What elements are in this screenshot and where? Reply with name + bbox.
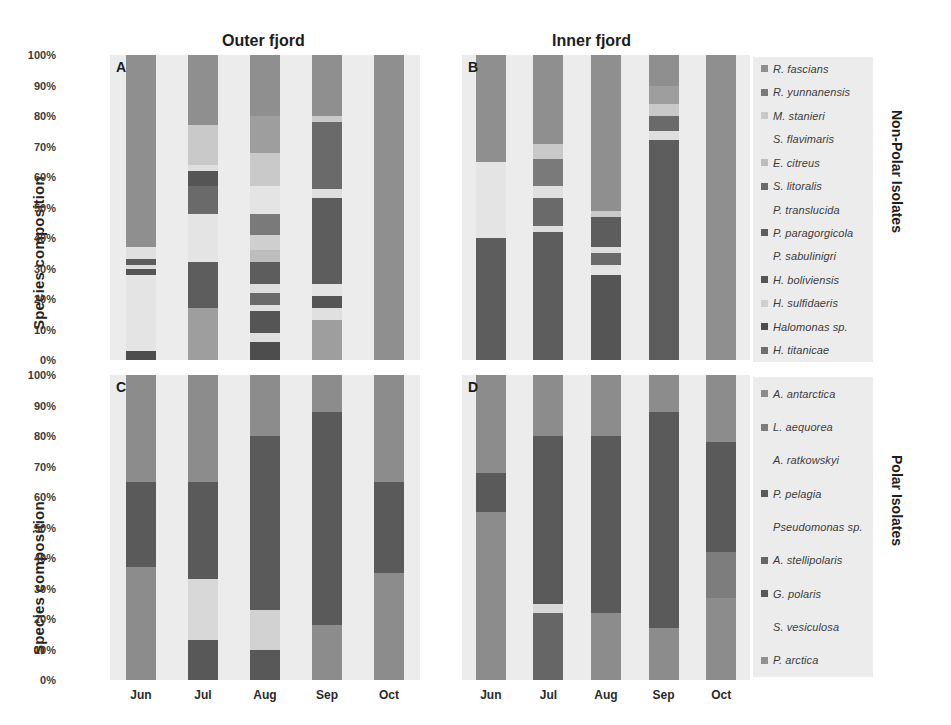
legend-color-swatch — [761, 424, 768, 431]
bar-segment — [649, 628, 679, 680]
x-tick-label-month: Oct — [711, 688, 731, 702]
bar-segment — [649, 131, 679, 140]
bar-segment — [250, 650, 280, 681]
bar-segment — [649, 412, 679, 629]
bar-segment — [312, 296, 342, 308]
bar-segment — [126, 567, 156, 680]
stacked-bar — [126, 55, 156, 360]
legend-item-label: R. fascians — [773, 63, 829, 75]
column-title-outer-fjord: Outer fjord — [222, 32, 305, 50]
bar-segment — [533, 198, 563, 225]
bar-segment — [533, 604, 563, 613]
stacked-bar — [649, 55, 679, 360]
group-label-polar: Polar Isolates — [889, 455, 905, 546]
bar-segment — [533, 375, 563, 436]
y-tick-label: 0% — [40, 674, 56, 686]
legend-item: H. boliviensis — [761, 273, 839, 287]
bar-segment — [649, 104, 679, 116]
bar-segment — [533, 232, 563, 360]
stacked-bar — [312, 55, 342, 360]
x-tick-label-month: Sep — [316, 688, 338, 702]
legend-item: P. pelagia — [761, 487, 822, 501]
legend-item-label: P. arctica — [773, 654, 818, 666]
bar-segment — [312, 284, 342, 296]
legend-item: L. aequorea — [761, 420, 833, 434]
stacked-bar — [476, 55, 506, 360]
figure-root: Species composition Species composition … — [0, 0, 951, 725]
legend-color-swatch — [761, 390, 768, 397]
bar-segment — [188, 640, 218, 680]
panel-b-inner-fjord-non-polar: B — [462, 55, 750, 360]
bar-segment — [250, 293, 280, 305]
bar-segment — [312, 198, 342, 283]
x-axis-months-inner: JunJulAugSepOct — [462, 688, 750, 708]
bar-segment — [188, 171, 218, 186]
legend-color-swatch — [761, 89, 768, 96]
legend-item-label: A. ratkowskyi — [773, 454, 839, 466]
bar-segment — [706, 375, 736, 442]
bar-segment — [591, 253, 621, 265]
bar-segment — [476, 512, 506, 680]
legend-color-swatch — [761, 457, 768, 464]
bar-segment — [591, 55, 621, 211]
bar-segment — [250, 284, 280, 293]
bar-segment — [250, 250, 280, 262]
legend-item: S. litoralis — [761, 179, 822, 193]
stacked-bar — [533, 375, 563, 680]
panel-letter: D — [468, 379, 478, 395]
column-title-inner-fjord: Inner fjord — [552, 32, 631, 50]
legend-item-label: P. pelagia — [773, 488, 822, 500]
stacked-bar — [250, 55, 280, 360]
bar-segment — [591, 436, 621, 613]
x-tick-label-month: Sep — [653, 688, 675, 702]
bar-segment — [250, 375, 280, 436]
legend-item: P. sabulinigri — [761, 249, 836, 263]
y-tick-label: 90% — [34, 400, 56, 412]
legend-color-swatch — [761, 159, 768, 166]
bar-segment — [250, 436, 280, 610]
bar-segment — [250, 214, 280, 235]
bar-segment — [374, 375, 404, 482]
bar-segment — [533, 55, 563, 143]
legend-color-swatch — [761, 65, 768, 72]
x-tick-label-month: Oct — [379, 688, 399, 702]
bar-segment — [126, 275, 156, 351]
stacked-bar — [312, 375, 342, 680]
bar-segment — [649, 86, 679, 104]
bar-segment — [649, 375, 679, 412]
y-tick-label: 10% — [34, 324, 56, 336]
legend-color-swatch — [761, 557, 768, 564]
legend-color-swatch — [761, 112, 768, 119]
bar-segment — [533, 144, 563, 159]
y-tick-label: 60% — [34, 491, 56, 503]
legend-item-label: S. flavimaris — [773, 133, 834, 145]
bar-segment — [250, 610, 280, 650]
legend-item: P. paragorgicola — [761, 226, 853, 240]
legend-item: A. antarctica — [761, 387, 835, 401]
legend-color-swatch — [761, 300, 768, 307]
legend-item: A. stellipolaris — [761, 553, 842, 567]
y-tick-label: 80% — [34, 430, 56, 442]
legend-item: M. stanieri — [761, 109, 825, 123]
panel-letter: B — [468, 59, 478, 75]
legend-color-swatch — [761, 624, 768, 631]
bar-segment — [312, 122, 342, 189]
bar-segment — [591, 375, 621, 436]
legend-item: E. citreus — [761, 156, 820, 170]
legend-item-label: S. vesiculosa — [773, 621, 839, 633]
y-tick-label: 90% — [34, 80, 56, 92]
stacked-bar — [250, 375, 280, 680]
legend-color-swatch — [761, 323, 768, 330]
legend-non-polar-isolates: R. fasciansR. yunnanensisM. stanieriS. f… — [753, 57, 873, 362]
stacked-bar — [706, 375, 736, 680]
bar-segment — [250, 116, 280, 153]
bar-segment — [312, 320, 342, 360]
legend-color-swatch — [761, 229, 768, 236]
bar-segment — [706, 55, 736, 360]
legend-color-swatch — [761, 590, 768, 597]
y-tick-label: 50% — [34, 522, 56, 534]
bar-segment — [312, 55, 342, 116]
bar-segment — [126, 482, 156, 567]
y-tick-label: 10% — [34, 644, 56, 656]
bar-segment — [533, 436, 563, 604]
